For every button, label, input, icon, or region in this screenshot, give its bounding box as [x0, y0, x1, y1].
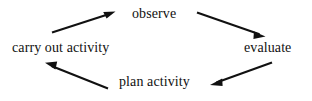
edge-observe-to-evaluate [197, 13, 266, 40]
arrowhead-carry-out-activity-to-observe [103, 12, 115, 19]
arrowhead-plan-activity-to-carry-out-activity [45, 62, 57, 70]
node-label-plan-activity: plan activity [119, 75, 190, 89]
edge-evaluate-to-plan-activity [210, 63, 272, 87]
edge-line-observe-to-evaluate [197, 13, 260, 35]
cycle-diagram: observe evaluate plan activity carry out… [0, 0, 312, 101]
edge-line-carry-out-activity-to-observe [52, 14, 110, 33]
arrowhead-evaluate-to-plan-activity [210, 79, 223, 86]
edge-plan-activity-to-carry-out-activity [45, 62, 108, 89]
edge-carry-out-activity-to-observe [52, 12, 116, 33]
node-label-evaluate: evaluate [244, 41, 291, 55]
node-label-observe: observe [132, 7, 176, 21]
edge-line-evaluate-to-plan-activity [217, 63, 273, 83]
arrowhead-observe-to-evaluate [253, 32, 265, 39]
edge-line-plan-activity-to-carry-out-activity [52, 66, 109, 89]
node-label-carry-out-activity: carry out activity [12, 41, 109, 55]
